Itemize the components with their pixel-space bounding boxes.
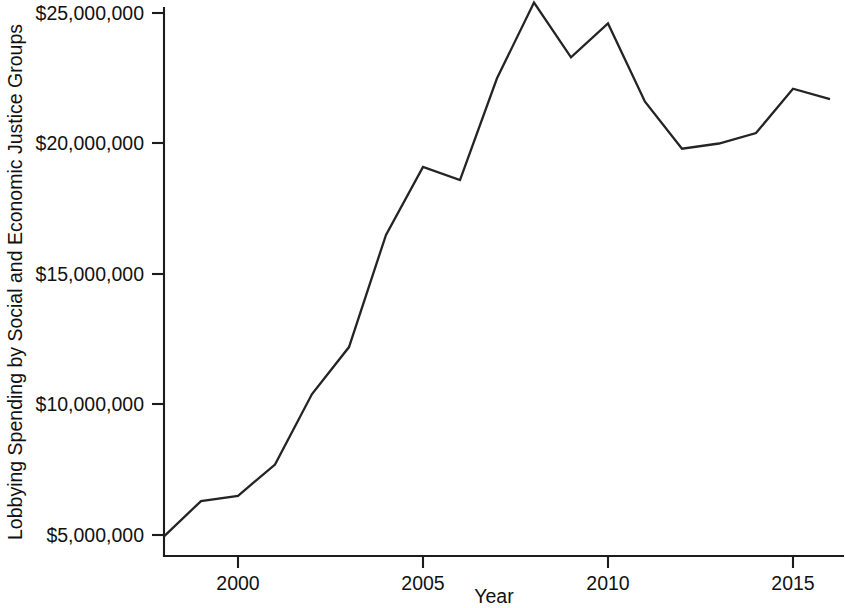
- chart-canvas: $5,000,000 $10,000,000 $15,000,000 $20,0…: [0, 0, 845, 608]
- y-axis-title: Lobbying Spending by Social and Economic…: [4, 24, 26, 540]
- x-axis-title: Year: [474, 585, 514, 607]
- x-tick-label-2015: 2015: [771, 572, 815, 594]
- x-tick-label-2010: 2010: [586, 572, 630, 594]
- y-tick-label-10m: $10,000,000: [36, 393, 145, 415]
- y-tick-label-25m: $25,000,000: [36, 2, 145, 24]
- y-tick-label-5m: $5,000,000: [46, 524, 144, 546]
- y-axis-ticks: [152, 13, 164, 535]
- y-tick-label-20m: $20,000,000: [36, 132, 145, 154]
- x-tick-label-2005: 2005: [401, 572, 445, 594]
- line-chart-figure: $5,000,000 $10,000,000 $15,000,000 $20,0…: [0, 0, 845, 608]
- y-tick-label-15m: $15,000,000: [36, 263, 145, 285]
- x-axis-ticks: [238, 556, 793, 568]
- x-tick-label-2000: 2000: [216, 572, 260, 594]
